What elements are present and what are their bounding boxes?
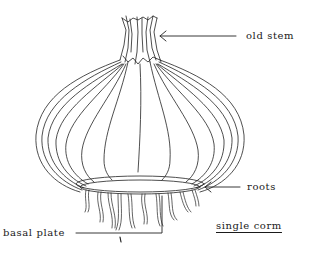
tunic-lines — [36, 60, 244, 192]
leader-lines — [76, 31, 240, 233]
corm-diagram: old stem roots basal plate single corm — [0, 0, 309, 254]
basal-plate-shape — [76, 176, 204, 194]
label-old-stem: old stem — [246, 30, 294, 41]
roots-shape — [85, 190, 199, 230]
label-basal-plate: basal plate — [3, 227, 65, 238]
diagram-title: single corm — [216, 220, 282, 231]
old-stem-shape — [120, 16, 161, 64]
label-roots: roots — [247, 181, 276, 192]
